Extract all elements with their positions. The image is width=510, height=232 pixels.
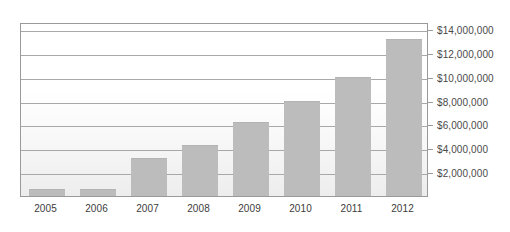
plot-area (20, 23, 428, 197)
x-axis-label: 2011 (334, 203, 370, 214)
y-axis-tick (428, 78, 433, 79)
y-axis-label: $12,000,000 (437, 48, 494, 59)
y-axis-tick (428, 149, 433, 150)
y-axis-tick (428, 125, 433, 126)
bar (29, 189, 65, 196)
y-axis-tick (428, 54, 433, 55)
bar (80, 189, 116, 196)
bar-chart: $2,000,000$4,000,000$6,000,000$8,000,000… (0, 0, 510, 232)
y-axis-label: $2,000,000 (437, 168, 488, 179)
y-axis-tick (428, 173, 433, 174)
bars-layer (21, 24, 427, 196)
x-axis-label: 2007 (130, 203, 166, 214)
bar (386, 39, 422, 196)
x-axis-label: 2006 (79, 203, 115, 214)
y-axis-label: $4,000,000 (437, 144, 488, 155)
y-axis-tick (428, 102, 433, 103)
y-axis-label: $6,000,000 (437, 120, 488, 131)
y-axis-label: $8,000,000 (437, 96, 488, 107)
bar (284, 101, 320, 196)
bar (131, 158, 167, 196)
bar (182, 145, 218, 196)
x-axis-label: 2009 (232, 203, 268, 214)
y-axis-tick (428, 30, 433, 31)
bar (335, 77, 371, 196)
y-axis-label: $14,000,000 (437, 25, 494, 36)
x-axis-label: 2010 (283, 203, 319, 214)
y-axis-label: $10,000,000 (437, 72, 494, 83)
bar (233, 122, 269, 196)
x-axis-label: 2008 (181, 203, 217, 214)
x-axis-label: 2005 (28, 203, 64, 214)
x-axis-label: 2012 (385, 203, 421, 214)
